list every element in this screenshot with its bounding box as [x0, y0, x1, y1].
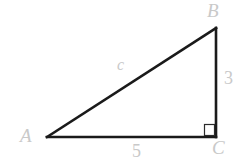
right-angle-square-icon	[205, 125, 215, 136]
geometry-figure: B A C c 3 5	[0, 0, 245, 158]
side-label-base: 5	[132, 142, 141, 158]
side-label-hypotenuse: c	[117, 57, 124, 73]
triangle-svg	[0, 0, 245, 158]
vertex-label-a: A	[20, 126, 32, 145]
triangle-side-hypotenuse	[47, 28, 216, 137]
vertex-label-c: C	[212, 138, 225, 157]
side-label-vertical: 3	[224, 69, 233, 87]
vertex-label-b: B	[207, 1, 219, 20]
